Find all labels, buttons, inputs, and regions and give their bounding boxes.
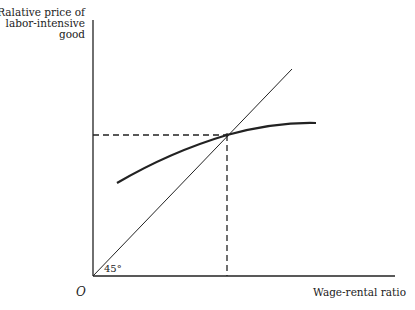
x-axis-label: Wage-rental ratio [313, 286, 406, 298]
angle-label: 45° [104, 263, 122, 274]
intersection-point [225, 133, 229, 137]
line-45-degree [93, 69, 292, 276]
origin-label: O [76, 285, 86, 299]
diagram-canvas [0, 0, 415, 310]
price-curve [117, 123, 316, 183]
